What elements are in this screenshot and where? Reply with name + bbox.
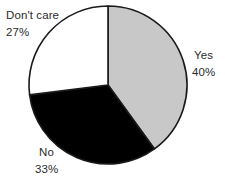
pie-label-yes-value: 40% (192, 66, 215, 79)
pie-label-yes: Yes 40% (194, 49, 215, 79)
pie-chart-figure: Don't care 27% Yes 40% No 33% (0, 0, 225, 180)
pie-label-no-value: 33% (35, 163, 58, 176)
pie-label-dont-care-value: 27% (6, 26, 59, 39)
pie-label-yes-name: Yes (194, 49, 213, 61)
pie-label-dont-care-name: Don't care (6, 9, 59, 21)
pie-label-no: No 33% (39, 146, 58, 176)
pie-label-dont-care: Don't care 27% (6, 9, 59, 39)
pie-label-no-name: No (39, 146, 54, 158)
